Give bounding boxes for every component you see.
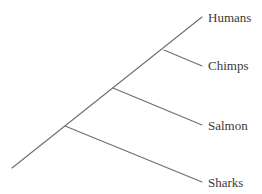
label-humans: Humans [208, 10, 251, 25]
label-salmon: Salmon [208, 118, 248, 133]
cladogram: Humans Chimps Salmon Sharks [0, 0, 262, 194]
label-chimps: Chimps [208, 58, 248, 73]
branch-chimps [164, 50, 202, 66]
branch-sharks [65, 126, 202, 182]
label-sharks: Sharks [208, 175, 243, 190]
trunk-branch [12, 17, 202, 168]
branch-salmon [113, 88, 202, 125]
